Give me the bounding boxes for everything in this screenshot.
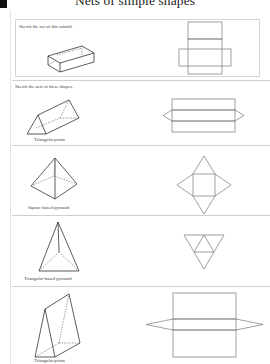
triangular-prism-net-2 bbox=[0, 0, 270, 364]
